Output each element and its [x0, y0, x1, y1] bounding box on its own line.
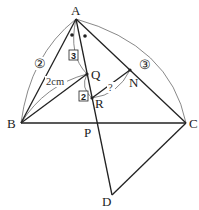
segment-ad [76, 19, 112, 195]
point-n-dot [128, 68, 131, 71]
angle-mark-dot [70, 33, 74, 37]
label-unknown-rn: ? [108, 82, 113, 93]
label-ratio-ab: ② [34, 56, 46, 71]
label-point-a: A [71, 3, 81, 18]
label-point-p: P [84, 125, 91, 140]
geometry-diagram: A B C P Q R N D ② ③ 2cm 3 2 ? [0, 0, 199, 210]
label-length-bq: 2cm [46, 76, 64, 87]
label-point-c: C [189, 116, 198, 131]
label-point-q: Q [91, 67, 101, 82]
segment-cd [112, 123, 186, 195]
point-r-dot [90, 96, 93, 99]
label-point-r: R [95, 96, 104, 111]
segment-ab [21, 19, 76, 123]
angle-mark-dot [83, 34, 87, 38]
label-point-n: N [129, 75, 139, 90]
label-ratio-ac: ③ [139, 57, 151, 72]
point-q-dot [85, 72, 88, 75]
label-point-b: B [7, 116, 16, 131]
label-point-d: D [102, 194, 111, 209]
label-ratio-qr: 2 [81, 92, 86, 102]
label-ratio-aq: 3 [71, 51, 76, 61]
